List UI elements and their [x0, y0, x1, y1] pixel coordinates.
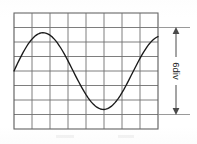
waveform-canvas: 6div: [0, 0, 197, 144]
amplitude-label: 6div: [171, 62, 182, 80]
caption-mark-2: [118, 135, 134, 138]
oscilloscope-figure: 6div: [0, 0, 197, 144]
caption-mark-1: [56, 135, 74, 138]
figure-background: [0, 0, 197, 144]
